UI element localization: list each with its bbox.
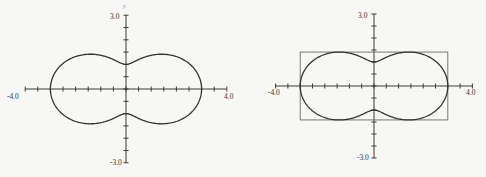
plot-left — [25, 15, 227, 163]
left-yaxis-label: y — [122, 3, 126, 9]
left-xmin-label: -4.0 — [7, 92, 19, 101]
left-xmax-label: 4.0 — [224, 92, 234, 101]
right-xmin-label: -4.0 — [268, 88, 280, 97]
chart-canvas: -4.0 4.0 3.0 -3.0 y -4.0 4.0 3.0 -3.0 — [0, 0, 486, 177]
plot-right — [276, 14, 473, 158]
right-ymax-label: 3.0 — [358, 11, 368, 20]
right-xmax-label: 4.0 — [466, 88, 476, 97]
left-ymin-label: -3.0 — [110, 158, 122, 167]
left-ymax-label: 3.0 — [110, 12, 120, 21]
right-ymin-label: -3.0 — [357, 153, 369, 162]
